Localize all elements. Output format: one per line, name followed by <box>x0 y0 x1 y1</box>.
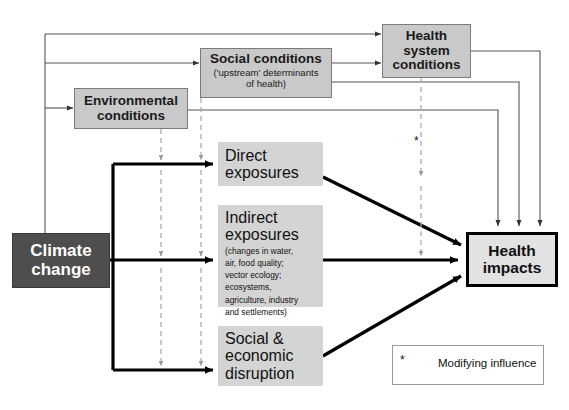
node-health-impacts[interactable]: Health impacts <box>466 232 558 287</box>
link-health-system-to-impacts <box>471 51 540 226</box>
node-social-conditions-label: Social conditions <box>210 52 322 67</box>
node-direct-exposures[interactable]: Direct exposures <box>218 142 323 186</box>
link-social-disruption-to-impacts <box>323 276 461 356</box>
node-indirect-exposures-line1: Indirect <box>225 209 277 226</box>
link-social-to-impacts <box>332 82 519 226</box>
node-indirect-exposures-sub-line1: (changes in water, <box>225 246 293 256</box>
diagram-canvas: Climate change Environmental conditions … <box>0 0 569 410</box>
node-indirect-exposures-sub-line2: air, food quality; <box>225 258 284 268</box>
node-social-economic-disruption-line1: Social & <box>225 330 284 347</box>
node-social-conditions-sub-line2: of health) <box>246 79 286 90</box>
node-indirect-exposures[interactable]: Indirect exposures (changes in water, ai… <box>218 205 323 307</box>
node-indirect-exposures-sub-line5: agriculture, industry <box>225 295 298 305</box>
node-health-system-conditions-line3: conditions <box>392 58 460 73</box>
node-social-economic-disruption[interactable]: Social & economic disruption <box>218 326 323 386</box>
node-social-economic-disruption-line2: economic <box>225 347 293 364</box>
node-environmental-conditions-line1: Environmental <box>84 94 178 109</box>
node-climate-change-line2: change <box>31 261 91 279</box>
node-indirect-exposures-line2: exposures <box>225 226 299 243</box>
node-indirect-exposures-sub-line3: vector ecology; <box>225 270 281 280</box>
node-health-system-conditions-line2: system <box>403 44 450 59</box>
legend-label: Modifying influence <box>438 357 536 369</box>
node-environmental-conditions-line2: conditions <box>97 109 165 124</box>
legend-asterisk-icon: * <box>400 353 405 367</box>
node-indirect-exposures-sub-line6: and settlements) <box>225 307 287 317</box>
node-health-impacts-line2: impacts <box>483 260 542 277</box>
node-climate-change[interactable]: Climate change <box>12 233 110 288</box>
node-health-system-conditions-line1: Health <box>406 29 447 44</box>
node-climate-change-line1: Climate <box>30 242 91 260</box>
node-indirect-exposures-sub-line4: ecosystems, <box>225 282 272 292</box>
asterisk-marker: * <box>414 134 419 148</box>
node-social-conditions-sub-line1: ('upstream' determinants <box>214 68 319 79</box>
node-social-economic-disruption-line3: disruption <box>225 365 294 382</box>
node-direct-exposures-line2: exposures <box>225 164 299 181</box>
node-social-conditions[interactable]: Social conditions ('upstream' determinan… <box>200 48 332 98</box>
node-environmental-conditions[interactable]: Environmental conditions <box>74 88 188 129</box>
link-direct-exposures-to-impacts <box>323 177 461 245</box>
node-direct-exposures-line1: Direct <box>225 147 267 164</box>
node-health-system-conditions[interactable]: Health system conditions <box>382 24 471 78</box>
node-health-impacts-line1: Health <box>488 243 535 260</box>
